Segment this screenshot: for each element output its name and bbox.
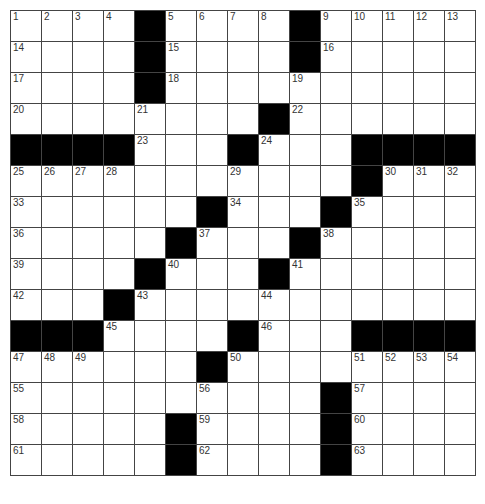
grid-cell[interactable]: 37 bbox=[197, 228, 227, 258]
grid-cell[interactable] bbox=[104, 383, 134, 413]
grid-cell[interactable] bbox=[228, 383, 258, 413]
grid-cell[interactable] bbox=[259, 42, 289, 72]
grid-cell[interactable] bbox=[445, 259, 475, 289]
grid-cell[interactable] bbox=[73, 197, 103, 227]
grid-cell[interactable] bbox=[259, 383, 289, 413]
grid-cell[interactable] bbox=[290, 445, 320, 475]
grid-cell[interactable] bbox=[290, 414, 320, 444]
grid-cell[interactable]: 60 bbox=[352, 414, 382, 444]
grid-cell[interactable] bbox=[414, 290, 444, 320]
grid-cell[interactable] bbox=[73, 73, 103, 103]
grid-cell[interactable] bbox=[445, 73, 475, 103]
grid-cell[interactable] bbox=[321, 321, 351, 351]
grid-cell[interactable] bbox=[383, 42, 413, 72]
grid-cell[interactable] bbox=[445, 445, 475, 475]
grid-cell[interactable]: 16 bbox=[321, 42, 351, 72]
grid-cell[interactable] bbox=[445, 104, 475, 134]
grid-cell[interactable] bbox=[228, 414, 258, 444]
grid-cell[interactable] bbox=[259, 197, 289, 227]
grid-cell[interactable]: 58 bbox=[11, 414, 41, 444]
grid-cell[interactable] bbox=[42, 383, 72, 413]
grid-cell[interactable] bbox=[104, 104, 134, 134]
grid-cell[interactable] bbox=[166, 104, 196, 134]
grid-cell[interactable] bbox=[352, 290, 382, 320]
grid-cell[interactable] bbox=[104, 259, 134, 289]
grid-cell[interactable]: 12 bbox=[414, 11, 444, 41]
grid-cell[interactable] bbox=[321, 290, 351, 320]
grid-cell[interactable] bbox=[73, 414, 103, 444]
grid-cell[interactable]: 45 bbox=[104, 321, 134, 351]
grid-cell[interactable] bbox=[197, 290, 227, 320]
grid-cell[interactable] bbox=[104, 197, 134, 227]
grid-cell[interactable]: 13 bbox=[445, 11, 475, 41]
grid-cell[interactable] bbox=[414, 73, 444, 103]
grid-cell[interactable] bbox=[228, 73, 258, 103]
grid-cell[interactable]: 34 bbox=[228, 197, 258, 227]
grid-cell[interactable] bbox=[414, 228, 444, 258]
grid-cell[interactable] bbox=[166, 321, 196, 351]
grid-cell[interactable]: 48 bbox=[42, 352, 72, 382]
grid-cell[interactable] bbox=[228, 445, 258, 475]
grid-cell[interactable] bbox=[383, 414, 413, 444]
grid-cell[interactable]: 9 bbox=[321, 11, 351, 41]
grid-cell[interactable]: 15 bbox=[166, 42, 196, 72]
grid-cell[interactable]: 28 bbox=[104, 166, 134, 196]
grid-cell[interactable] bbox=[383, 197, 413, 227]
grid-cell[interactable] bbox=[73, 445, 103, 475]
grid-cell[interactable]: 33 bbox=[11, 197, 41, 227]
grid-cell[interactable] bbox=[414, 42, 444, 72]
grid-cell[interactable]: 6 bbox=[197, 11, 227, 41]
grid-cell[interactable]: 51 bbox=[352, 352, 382, 382]
grid-cell[interactable] bbox=[197, 166, 227, 196]
grid-cell[interactable] bbox=[383, 228, 413, 258]
grid-cell[interactable] bbox=[321, 352, 351, 382]
grid-cell[interactable] bbox=[197, 104, 227, 134]
grid-cell[interactable] bbox=[135, 228, 165, 258]
grid-cell[interactable]: 39 bbox=[11, 259, 41, 289]
grid-cell[interactable] bbox=[259, 414, 289, 444]
grid-cell[interactable]: 54 bbox=[445, 352, 475, 382]
grid-cell[interactable]: 11 bbox=[383, 11, 413, 41]
grid-cell[interactable]: 23 bbox=[135, 135, 165, 165]
grid-cell[interactable] bbox=[73, 104, 103, 134]
grid-cell[interactable] bbox=[445, 414, 475, 444]
grid-cell[interactable] bbox=[290, 383, 320, 413]
grid-cell[interactable]: 55 bbox=[11, 383, 41, 413]
grid-cell[interactable]: 38 bbox=[321, 228, 351, 258]
grid-cell[interactable] bbox=[259, 352, 289, 382]
grid-cell[interactable]: 10 bbox=[352, 11, 382, 41]
grid-cell[interactable] bbox=[445, 383, 475, 413]
grid-cell[interactable] bbox=[197, 259, 227, 289]
grid-cell[interactable]: 40 bbox=[166, 259, 196, 289]
grid-cell[interactable] bbox=[445, 228, 475, 258]
grid-cell[interactable] bbox=[42, 414, 72, 444]
grid-cell[interactable]: 22 bbox=[290, 104, 320, 134]
grid-cell[interactable] bbox=[104, 228, 134, 258]
grid-cell[interactable] bbox=[135, 352, 165, 382]
grid-cell[interactable]: 52 bbox=[383, 352, 413, 382]
grid-cell[interactable] bbox=[197, 135, 227, 165]
grid-cell[interactable]: 32 bbox=[445, 166, 475, 196]
grid-cell[interactable]: 2 bbox=[42, 11, 72, 41]
grid-cell[interactable] bbox=[228, 42, 258, 72]
grid-cell[interactable] bbox=[383, 383, 413, 413]
grid-cell[interactable]: 50 bbox=[228, 352, 258, 382]
grid-cell[interactable] bbox=[166, 352, 196, 382]
grid-cell[interactable] bbox=[383, 259, 413, 289]
grid-cell[interactable]: 42 bbox=[11, 290, 41, 320]
grid-cell[interactable] bbox=[104, 445, 134, 475]
grid-cell[interactable] bbox=[321, 135, 351, 165]
grid-cell[interactable]: 20 bbox=[11, 104, 41, 134]
grid-cell[interactable] bbox=[321, 104, 351, 134]
grid-cell[interactable] bbox=[135, 197, 165, 227]
grid-cell[interactable]: 17 bbox=[11, 73, 41, 103]
grid-cell[interactable]: 41 bbox=[290, 259, 320, 289]
grid-cell[interactable] bbox=[290, 290, 320, 320]
grid-cell[interactable] bbox=[259, 166, 289, 196]
grid-cell[interactable] bbox=[104, 352, 134, 382]
grid-cell[interactable]: 7 bbox=[228, 11, 258, 41]
grid-cell[interactable] bbox=[135, 414, 165, 444]
grid-cell[interactable] bbox=[135, 321, 165, 351]
grid-cell[interactable] bbox=[259, 228, 289, 258]
grid-cell[interactable] bbox=[445, 42, 475, 72]
